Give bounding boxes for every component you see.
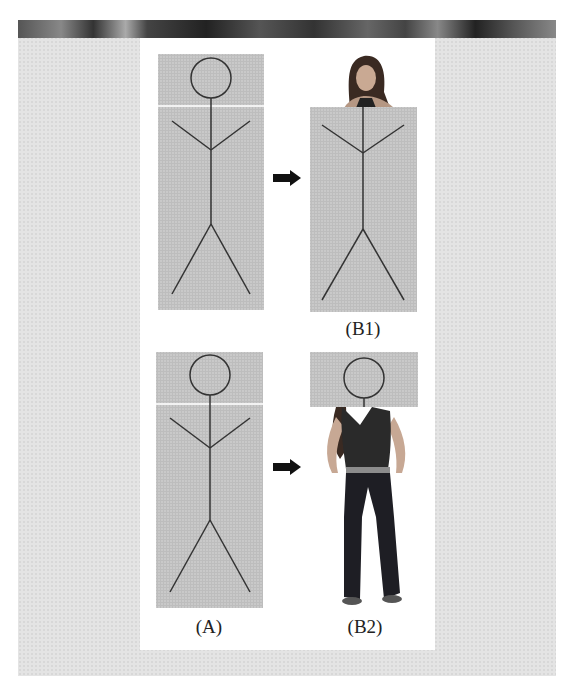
stick-figure-head-box-b2 [310,352,418,407]
label-a: (A) [169,616,249,638]
stick-figure-body-icon [310,107,417,312]
stick-figure-icon [156,352,263,608]
header-band [18,20,556,38]
woman-body-photo [322,407,412,609]
label-b1: (B1) [323,318,403,340]
stick-figure-body-box-b1 [310,107,417,312]
stick-figure-icon [158,54,264,310]
label-b2: (B2) [325,616,405,638]
stick-figure-box-top [158,54,264,310]
arrow-right-icon [273,170,303,186]
woman-head-photo [330,52,400,108]
arrow-right-icon [273,459,303,475]
stick-figure-head-icon [310,352,418,407]
stick-figure-box-a [156,352,263,608]
